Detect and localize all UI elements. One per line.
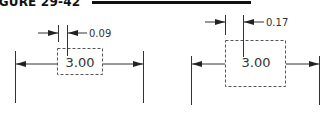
- dimension-drawings: 3.00 0.09 3.00 0.17: [0, 0, 324, 118]
- tolerance-value-text: 0.17: [266, 17, 288, 28]
- basic-dimension-text: 3.00: [242, 55, 271, 70]
- basic-dimension-text: 3.00: [66, 55, 95, 70]
- left-dimension-drawing: 3.00 0.09: [16, 25, 144, 103]
- tolerance-value-text: 0.09: [89, 28, 111, 39]
- right-dimension-drawing: 3.00 0.17: [192, 15, 320, 105]
